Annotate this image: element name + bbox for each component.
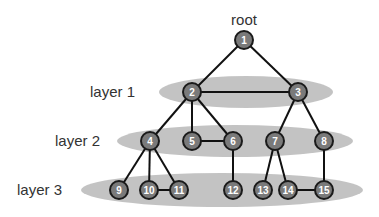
node-label: 7: [272, 136, 278, 147]
node-8: 8: [315, 132, 333, 150]
node-15: 15: [315, 181, 333, 199]
node-label: 8: [321, 136, 327, 147]
node-10: 10: [140, 181, 158, 199]
node-label: 14: [282, 185, 294, 196]
node-label: 2: [189, 87, 195, 98]
node-1: 1: [235, 31, 253, 49]
node-12: 12: [224, 181, 242, 199]
node-label: 13: [257, 185, 269, 196]
node-label: 6: [230, 136, 236, 147]
node-9: 9: [110, 181, 128, 199]
node-label: 12: [227, 185, 239, 196]
node-3: 3: [289, 83, 307, 101]
node-label: 9: [116, 185, 122, 196]
node-4: 4: [141, 132, 159, 150]
node-label: 11: [174, 185, 185, 196]
node-6: 6: [224, 132, 242, 150]
node-label: 10: [143, 185, 155, 196]
layer-2-label: layer 2: [55, 132, 100, 149]
node-label: 1: [241, 35, 247, 46]
node-label: 15: [318, 185, 330, 196]
node-2: 2: [183, 83, 201, 101]
node-label: 5: [189, 136, 195, 147]
node-13: 13: [254, 181, 272, 199]
graph-edges: [119, 40, 324, 190]
node-5: 5: [183, 132, 201, 150]
layered-graph-diagram: layer 1layer 2layer 3 root 1234567891011…: [0, 0, 379, 217]
layer-1-label: layer 1: [90, 83, 135, 100]
node-label: 3: [295, 87, 301, 98]
node-7: 7: [266, 132, 284, 150]
node-label: 4: [147, 136, 153, 147]
layer-3-label: layer 3: [17, 181, 62, 198]
node-11: 11: [170, 181, 188, 199]
node-14: 14: [279, 181, 297, 199]
root-label: root: [231, 11, 258, 28]
